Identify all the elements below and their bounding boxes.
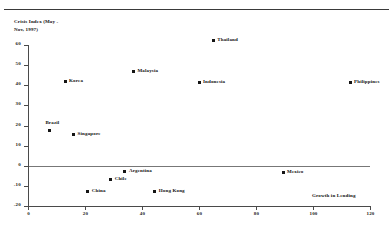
y-axis-label-line2: Nov, 1997) bbox=[14, 26, 100, 34]
x-axis-label: Growth in Lending bbox=[312, 193, 356, 198]
data-point-marker bbox=[282, 171, 285, 174]
x-axis-tick-label: 100 bbox=[309, 211, 317, 216]
y-axis-tick: 40 bbox=[24, 85, 29, 86]
y-axis-tick: 10 bbox=[24, 146, 29, 147]
y-axis-tick-label: 20 bbox=[16, 122, 21, 127]
x-axis-tick-label: 60 bbox=[197, 211, 202, 216]
y-axis-tick-label: 10 bbox=[16, 142, 21, 147]
x-axis-tick: 60 bbox=[199, 206, 200, 210]
x-axis-tick-label: 0 bbox=[27, 211, 30, 216]
y-axis-tick-label: 30 bbox=[16, 101, 21, 106]
y-axis-tick-label: -10 bbox=[14, 182, 21, 187]
data-point-marker bbox=[153, 190, 156, 193]
x-axis-tick: 120 bbox=[370, 206, 371, 210]
y-axis-tick: 50 bbox=[24, 65, 29, 66]
data-point-marker bbox=[123, 170, 126, 173]
y-axis-label-line1: Crisis Index (May - bbox=[14, 18, 100, 26]
data-point-label: Malaysia bbox=[137, 68, 158, 73]
data-point-label: Argentina bbox=[129, 168, 152, 173]
y-axis-tick-label: 50 bbox=[16, 61, 21, 66]
x-axis-tick: 20 bbox=[85, 206, 86, 210]
data-point-marker bbox=[132, 70, 135, 73]
y-axis-tick: -10 bbox=[24, 186, 29, 187]
x-axis-tick: 40 bbox=[142, 206, 143, 210]
data-point-label: Hong Kong bbox=[159, 188, 185, 193]
data-point-label: Thailand bbox=[217, 37, 238, 42]
data-point-marker bbox=[212, 39, 215, 42]
scatter-chart-figure: Crisis Index (May - Nov, 1997) ThailandM… bbox=[0, 0, 391, 233]
y-axis-tick: 20 bbox=[24, 126, 29, 127]
data-point-marker bbox=[48, 129, 51, 132]
data-point-label: Mexico bbox=[287, 169, 303, 174]
data-point-label: Chile bbox=[115, 176, 127, 181]
x-axis-tick-label: 40 bbox=[140, 211, 145, 216]
x-axis-tick-label: 120 bbox=[366, 211, 374, 216]
y-axis-tick-label: -20 bbox=[14, 202, 21, 207]
data-point-marker bbox=[109, 178, 112, 181]
data-point-label: Brazil bbox=[45, 120, 59, 125]
data-point-label: Singapore bbox=[78, 131, 101, 136]
x-axis-tick: 100 bbox=[313, 206, 314, 210]
x-axis-tick: 0 bbox=[28, 206, 29, 210]
y-axis-tick-label: 40 bbox=[16, 81, 21, 86]
page-top-rule bbox=[4, 9, 389, 10]
data-point-label: Korea bbox=[69, 78, 83, 83]
y-axis-tick-label: 60 bbox=[16, 41, 21, 46]
y-axis-label: Crisis Index (May - Nov, 1997) bbox=[14, 18, 100, 33]
y-axis-tick-label: 0 bbox=[18, 162, 21, 167]
data-point-marker bbox=[349, 81, 352, 84]
y-axis-tick: 60 bbox=[24, 45, 29, 46]
x-axis-tick-label: 20 bbox=[83, 211, 88, 216]
data-point-label: Philippines bbox=[354, 79, 380, 84]
y-axis-tick: 0 bbox=[24, 166, 29, 167]
x-axis-tick: 80 bbox=[256, 206, 257, 210]
plot-area: ThailandMalaysiaKoreaIndonesiaPhilippine… bbox=[28, 45, 370, 205]
data-point-marker bbox=[86, 190, 89, 193]
data-point-marker bbox=[72, 133, 75, 136]
data-point-label: Indonesia bbox=[203, 79, 225, 84]
x-axis-tick-label: 80 bbox=[254, 211, 259, 216]
data-point-marker bbox=[64, 80, 67, 83]
data-point-marker bbox=[198, 81, 201, 84]
data-point-label: China bbox=[92, 188, 106, 193]
y-axis-tick: 30 bbox=[24, 105, 29, 106]
